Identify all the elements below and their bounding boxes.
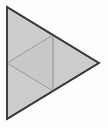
geometry-figure-canvas [0, 0, 108, 128]
geometry-diagram [0, 0, 108, 128]
